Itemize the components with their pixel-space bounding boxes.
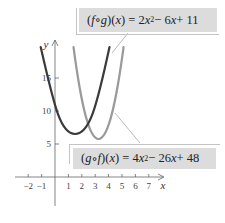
gof-label-text: ) = 4 <box>115 151 139 166</box>
gof-label-text: + 48 <box>176 151 199 166</box>
gof-leader-line <box>115 113 140 143</box>
fog-label-text: − 6 <box>154 13 170 28</box>
x-axis-label: x <box>160 179 166 191</box>
x-ticks <box>28 174 149 177</box>
fog-label-text: + 11 <box>176 13 198 28</box>
x-tick-label: 3 <box>93 181 98 191</box>
x-tick-label: 5 <box>120 181 125 191</box>
fog-label: (f∘g)(x) = 2x2 − 6x + 11 <box>79 8 217 32</box>
y-axis-label: y <box>43 38 49 50</box>
x-tick-label: 1 <box>66 181 71 191</box>
y-tick-label: 10 <box>42 106 52 116</box>
gof-label-text: − 26 <box>148 151 171 166</box>
gof-label: (g∘f)(x) = 4x2 − 26x + 48 <box>73 148 216 169</box>
x-tick-label: 6 <box>133 181 138 191</box>
x-tick-label: 7 <box>147 181 152 191</box>
x-tick-label: 4 <box>106 181 111 191</box>
x-tick-label: −2 <box>23 181 33 191</box>
y-tick-label: 5 <box>47 139 52 149</box>
x-tick-label: −1 <box>37 181 47 191</box>
x-tick-label: 2 <box>80 181 85 191</box>
fog-label-text: ) = 2 <box>121 13 145 28</box>
fog-leader-line <box>112 33 128 53</box>
